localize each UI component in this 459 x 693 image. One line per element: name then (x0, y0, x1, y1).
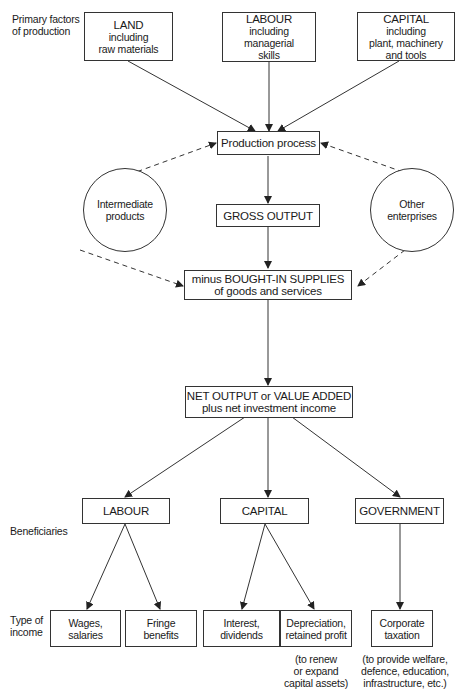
income-box-interest: Interest, dividends (203, 610, 280, 647)
box-line: minus BOUGHT-IN SUPPLIES (192, 273, 344, 285)
circle-line: Intermediate (97, 198, 153, 210)
circle-line: enterprises (387, 210, 437, 222)
note-line: capital assets) (280, 677, 352, 689)
row-label-type-of-income: Type of income (10, 614, 43, 638)
circle-line: products (106, 210, 145, 222)
note-line: infrastructure, etc.) (355, 677, 455, 689)
beneficiary-box-labour: LABOUR (82, 498, 170, 524)
row-label-line: Type of (10, 614, 43, 626)
bought-in-supplies-box: minus BOUGHT-IN SUPPLIES of goods and se… (184, 270, 352, 300)
row-label-line: of production (12, 25, 80, 37)
note-government-uses: (to provide welfare, defence, education,… (355, 653, 455, 689)
net-output-box: NET OUTPUT or VALUE ADDED plus net inves… (185, 386, 353, 418)
box-line: of goods and services (214, 285, 322, 297)
factor-title: CAPITAL (383, 13, 429, 25)
gross-output-box: GROSS OUTPUT (216, 204, 320, 227)
factor-box-land: LAND including raw materials (84, 12, 173, 61)
box-line: plus net investment income (202, 402, 336, 414)
factor-title: LAND (114, 19, 144, 31)
note-capital-assets: (to renew or expand capital assets) (280, 653, 352, 689)
box-line: dividends (220, 629, 263, 641)
income-box-wages: Wages, salaries (50, 610, 121, 647)
factor-title: LABOUR (246, 13, 292, 25)
note-line: defence, education, (355, 665, 455, 677)
note-line: (to renew (280, 653, 352, 665)
box-line: salaries (68, 629, 103, 641)
circle-intermediate-products: Intermediate products (83, 168, 167, 252)
box-line: taxation (384, 629, 419, 641)
factor-box-labour: LABOUR including managerial skills (222, 12, 316, 62)
factor-box-capital: CAPITAL including plant, machinery and t… (357, 12, 455, 61)
box-line: Wages, (68, 617, 102, 629)
factor-line: and tools (386, 49, 427, 61)
box-line: Depreciation, (286, 617, 345, 629)
income-box-corporate-taxation: Corporate taxation (371, 610, 433, 647)
factor-line: including (249, 25, 289, 37)
box-line: Fringe (147, 617, 176, 629)
box-line: Interest, (223, 617, 259, 629)
beneficiary-box-government: GOVERNMENT (355, 498, 444, 524)
factor-line: skills (258, 49, 280, 61)
row-label-beneficiaries: Beneficiaries (10, 525, 68, 537)
income-box-depreciation: Depreciation, retained profit (280, 610, 352, 647)
box-line: NET OUTPUT or VALUE ADDED (187, 390, 351, 402)
factor-line: including (109, 31, 149, 43)
note-line: or expand (280, 665, 352, 677)
factor-line: including (386, 25, 426, 37)
beneficiary-box-capital: CAPITAL (220, 498, 309, 524)
income-box-fringe-benefits: Fringe benefits (125, 610, 197, 647)
factor-line: managerial (244, 37, 294, 49)
box-line: Corporate (380, 617, 425, 629)
row-label-line: income (10, 626, 43, 638)
circle-other-enterprises: Other enterprises (370, 168, 454, 252)
connector-lines (0, 0, 459, 693)
factor-line: raw materials (99, 43, 159, 55)
row-label-line: Primary factors (12, 13, 80, 25)
note-line: (to provide welfare, (355, 653, 455, 665)
row-label-primary-factors: Primary factors of production (12, 13, 80, 37)
factor-line: plant, machinery (369, 37, 443, 49)
box-line: benefits (143, 629, 178, 641)
box-line: retained profit (285, 629, 346, 641)
production-process-box: Production process (217, 131, 320, 155)
circle-line: Other (399, 198, 424, 210)
